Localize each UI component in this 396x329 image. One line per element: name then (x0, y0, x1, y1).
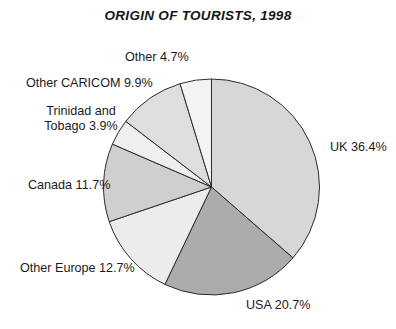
slice-label-other: Other 4.7% (125, 50, 189, 65)
pie-slices (103, 79, 319, 295)
pie-chart-graphic (0, 0, 396, 329)
slice-label-usa: USA 20.7% (246, 298, 310, 313)
pie-chart-figure: ORIGIN OF TOURISTS, 1998 UK 36.4% USA 20… (0, 0, 396, 329)
slice-label-uk: UK 36.4% (330, 140, 387, 155)
slice-label-other-caricom: Other CARICOM 9.9% (26, 76, 153, 91)
slice-label-canada: Canada 11.7% (28, 178, 110, 193)
slice-label-other-europe: Other Europe 12.7% (20, 261, 135, 276)
slice-label-trinidad-and-tobago: Trinidad and Tobago 3.9% (31, 104, 131, 133)
